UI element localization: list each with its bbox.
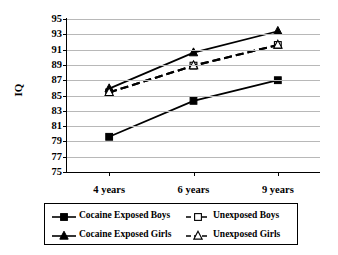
data-point-marker bbox=[106, 133, 113, 140]
x-tick-label: 6 years bbox=[178, 184, 210, 195]
gridline bbox=[67, 111, 320, 112]
data-point-marker bbox=[195, 213, 202, 220]
y-tick-label: 87 bbox=[38, 75, 62, 85]
y-tick-label: 91 bbox=[38, 45, 62, 55]
y-tick-mark bbox=[63, 126, 67, 127]
iq-line-chart: IQ 9593918987858381797775 4 years6 years… bbox=[0, 0, 338, 255]
y-tick-mark bbox=[63, 111, 67, 112]
legend-label: Cocaine Exposed Girls bbox=[79, 229, 171, 239]
data-point-marker bbox=[60, 231, 68, 239]
chart-legend: Cocaine Exposed BoysUnexposed BoysCocain… bbox=[44, 203, 298, 245]
y-tick-label: 81 bbox=[38, 121, 62, 131]
gridline bbox=[67, 157, 320, 158]
y-tick-mark bbox=[63, 96, 67, 97]
legend-filled-triangle-icon bbox=[51, 228, 77, 240]
gridline bbox=[67, 19, 320, 20]
legend-item[interactable]: Cocaine Exposed Boys bbox=[51, 206, 170, 223]
y-tick-mark bbox=[63, 34, 67, 35]
gridline bbox=[67, 50, 320, 51]
data-point-marker bbox=[190, 97, 197, 104]
y-tick-label: 77 bbox=[38, 152, 62, 162]
y-tick-label: 79 bbox=[38, 136, 62, 146]
y-tick-label: 89 bbox=[38, 60, 62, 70]
y-tick-label: 93 bbox=[38, 29, 62, 39]
y-tick-label: 83 bbox=[38, 106, 62, 116]
series-cocaine-exposed-boys bbox=[106, 77, 281, 140]
gridline bbox=[67, 34, 320, 35]
y-tick-mark bbox=[63, 50, 67, 51]
legend-item[interactable]: Unexposed Girls bbox=[185, 225, 280, 242]
gridline bbox=[67, 80, 320, 81]
gridline bbox=[67, 126, 320, 127]
y-tick-mark bbox=[63, 172, 67, 173]
legend-open-triangle-icon bbox=[185, 228, 211, 240]
y-tick-mark bbox=[63, 19, 67, 20]
plot-area bbox=[67, 19, 320, 172]
data-point-marker bbox=[194, 231, 202, 239]
x-tick-mark bbox=[109, 172, 110, 176]
data-point-marker bbox=[274, 26, 282, 34]
x-tick-mark bbox=[278, 172, 279, 176]
y-tick-mark bbox=[63, 157, 67, 158]
y-tick-label: 95 bbox=[38, 14, 62, 24]
legend-item[interactable]: Unexposed Boys bbox=[185, 206, 279, 223]
legend-filled-square-icon bbox=[51, 209, 77, 221]
y-tick-mark bbox=[63, 80, 67, 81]
legend-open-square-icon bbox=[185, 209, 211, 221]
gridline bbox=[67, 141, 320, 142]
legend-label: Unexposed Girls bbox=[213, 229, 280, 239]
y-tick-label: 75 bbox=[38, 167, 62, 177]
legend-item[interactable]: Cocaine Exposed Girls bbox=[51, 225, 171, 242]
legend-label: Unexposed Boys bbox=[213, 210, 279, 220]
y-axis-title: IQ bbox=[12, 80, 24, 100]
gridline bbox=[67, 96, 320, 97]
series-line bbox=[109, 80, 278, 137]
data-point-marker bbox=[61, 213, 68, 220]
gridline bbox=[67, 65, 320, 66]
x-tick-label: 4 years bbox=[93, 184, 125, 195]
y-axis-tick-labels: 9593918987858381797775 bbox=[38, 19, 62, 172]
x-tick-mark bbox=[194, 172, 195, 176]
legend-label: Cocaine Exposed Boys bbox=[79, 210, 170, 220]
y-tick-mark bbox=[63, 65, 67, 66]
series-cocaine-exposed-girls bbox=[105, 26, 282, 91]
x-axis-tick-labels: 4 years6 years9 years bbox=[67, 184, 320, 198]
y-tick-label: 85 bbox=[38, 91, 62, 101]
x-tick-label: 9 years bbox=[262, 184, 294, 195]
y-tick-mark bbox=[63, 141, 67, 142]
